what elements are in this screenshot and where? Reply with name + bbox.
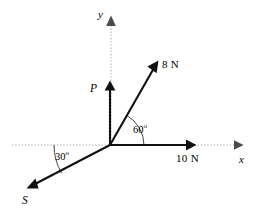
angle-60-degree-symbol: o	[144, 122, 148, 130]
vector-p-arrowhead	[105, 81, 116, 91]
angle-60-label: 60o	[133, 123, 147, 135]
vector-s-arrowhead	[27, 179, 39, 189]
vector-8n-label: 8 N	[162, 59, 179, 70]
angle-30-label: 30o	[55, 150, 69, 162]
y-axis-label: y	[98, 9, 103, 20]
angle-60-value: 60	[133, 124, 144, 135]
figure-canvas: y x 8 N 10 N P S 60o 30o	[0, 0, 256, 223]
vector-s-line	[35, 145, 110, 184]
x-axis-arrowhead	[234, 140, 244, 150]
vector-10n-label: 10 N	[176, 153, 199, 164]
angle-30-value: 30	[55, 151, 66, 162]
force-diagram-svg	[0, 0, 256, 223]
vector-8n-line	[110, 68, 154, 145]
y-axis-arrowhead	[106, 16, 116, 27]
vector-s-label: S	[22, 195, 28, 207]
x-axis-label: x	[239, 154, 244, 165]
angle-30-degree-symbol: o	[66, 149, 70, 157]
vector-10n-arrowhead	[186, 139, 197, 150]
vector-p-label: P	[90, 83, 97, 95]
